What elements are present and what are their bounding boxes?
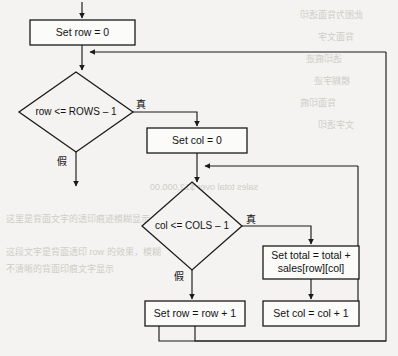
- branch-label-col-true: 真: [246, 213, 256, 225]
- edge-col-condition-true: [242, 226, 311, 244]
- node-set-row-increment-label: Set row = row + 1: [154, 307, 236, 319]
- branch-label-col-false: 假: [174, 270, 184, 282]
- node-col-condition-label: col <= COLS – 1: [155, 220, 229, 231]
- node-set-row-zero-label: Set row = 0: [56, 26, 110, 38]
- node-set-total-label-line-1: Set total = total +: [271, 249, 350, 261]
- node-set-col-increment-label: Set col = col + 1: [273, 307, 348, 319]
- node-set-total-label-line-2: sales[row][col]: [278, 262, 345, 274]
- node-col-condition[interactable]: col <= COLS – 1: [142, 182, 242, 270]
- branch-label-row-false: 假: [57, 155, 67, 167]
- node-row-condition[interactable]: row <= ROWS – 1: [19, 72, 133, 152]
- node-set-col-zero-label: Set col = 0: [172, 134, 222, 146]
- edge-outer-loop-return: [159, 52, 386, 341]
- node-set-row-zero[interactable]: Set row = 0: [30, 20, 135, 45]
- branch-label-row-true: 真: [136, 98, 146, 110]
- edge-set-row-increment-to-outer-return: [195, 326, 386, 341]
- node-set-col-increment[interactable]: Set col = col + 1: [263, 301, 359, 326]
- edge-row-condition-true: [133, 112, 197, 126]
- node-set-col-zero[interactable]: Set col = 0: [147, 128, 247, 153]
- flowchart-canvas: Set row = 0 row <= ROWS – 1 Set col = 0 …: [0, 0, 398, 356]
- node-row-condition-label: row <= ROWS – 1: [35, 106, 117, 117]
- node-set-total[interactable]: Set total = total + sales[row][col]: [263, 246, 359, 279]
- node-set-row-increment[interactable]: Set row = row + 1: [145, 301, 245, 326]
- flowchart-page: 此图为背面透印背面文字透印痕迹模糊字迹背面印痕文字透印sales total o…: [0, 0, 398, 356]
